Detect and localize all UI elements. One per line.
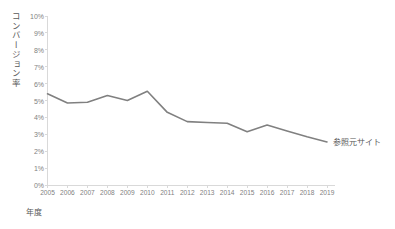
conversion-rate-line-chart: コンバージョン率 0%1%2%3%4%5%6%7%8%9%10% 2005200… — [0, 0, 395, 229]
series-label-referral-site: 参照元サイト — [333, 136, 381, 147]
plot-area — [0, 0, 395, 229]
x-axis-title: 年度 — [26, 206, 42, 217]
series-line-referral-site — [48, 91, 328, 142]
